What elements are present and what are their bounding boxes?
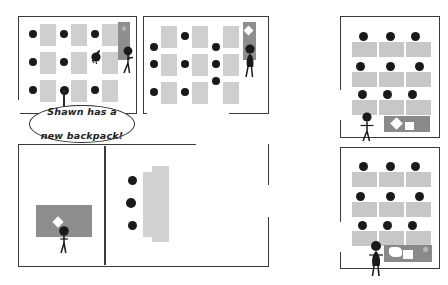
student-dot xyxy=(415,192,424,201)
counter-top xyxy=(152,166,169,242)
desk xyxy=(406,172,431,187)
student-dot xyxy=(359,32,368,41)
student-dot xyxy=(386,162,395,171)
desk xyxy=(406,202,431,217)
comic-stage: Shawn has a new backpack! xyxy=(0,0,448,285)
desk xyxy=(406,100,431,115)
student-dot xyxy=(126,198,136,208)
desk xyxy=(71,24,87,46)
student-dot xyxy=(91,86,99,94)
panel-bottom-left-right-gap xyxy=(267,185,270,217)
desk xyxy=(40,80,56,102)
student-dot xyxy=(128,176,137,185)
student-dot xyxy=(128,221,137,230)
student-dot xyxy=(411,32,420,41)
student-dot xyxy=(212,77,220,85)
person-with-backpack xyxy=(57,226,73,254)
student-dot xyxy=(181,88,189,96)
desk xyxy=(161,54,177,76)
desk xyxy=(161,26,177,48)
speech-bubble: Shawn has a new backpack! xyxy=(29,105,135,143)
student-dot xyxy=(150,88,158,96)
panel-bottom-left-top-gap xyxy=(196,143,268,146)
desk xyxy=(40,24,56,46)
desk xyxy=(161,82,177,104)
student-dot xyxy=(359,162,368,171)
door-knob-icon xyxy=(122,26,126,31)
student-dot xyxy=(91,30,99,38)
desk xyxy=(406,72,431,87)
desk xyxy=(379,72,404,87)
student-dot xyxy=(181,32,189,40)
student-dot xyxy=(60,30,68,38)
desk xyxy=(102,80,118,102)
speech-line-1: Shawn has a xyxy=(41,106,124,118)
desk xyxy=(102,24,118,46)
student-dot xyxy=(383,221,392,230)
student-dot xyxy=(411,162,420,171)
person-at-door xyxy=(243,44,259,78)
desk xyxy=(379,100,404,115)
student-dot xyxy=(386,192,395,201)
desk xyxy=(223,82,239,104)
desk xyxy=(71,52,87,74)
student-dot xyxy=(150,43,158,51)
student-dot xyxy=(386,62,395,71)
desk xyxy=(223,54,239,76)
student-dot xyxy=(383,90,392,99)
desk xyxy=(406,231,431,246)
speech-bubble-text: Shawn has a new backpack! xyxy=(41,106,124,142)
panel-top-right-wall-gap xyxy=(339,90,342,120)
dark-figure-center xyxy=(88,48,106,66)
desk xyxy=(192,82,208,104)
student-dot xyxy=(358,221,367,230)
panel-top-middle-wall-gap xyxy=(147,112,229,116)
desk xyxy=(40,52,56,74)
student-dot xyxy=(150,60,158,68)
desk xyxy=(352,42,377,57)
student-dot xyxy=(181,60,189,68)
desk xyxy=(352,202,377,217)
student-dot xyxy=(408,90,417,99)
student-dot xyxy=(386,32,395,41)
student-dot xyxy=(60,58,68,66)
student-dot xyxy=(356,192,365,201)
teacher-arms-out xyxy=(358,112,378,142)
desk xyxy=(192,54,208,76)
desk xyxy=(379,202,404,217)
desk xyxy=(352,172,377,187)
interior-divider-wall xyxy=(104,146,106,265)
desk xyxy=(379,42,404,57)
student-dot xyxy=(358,90,367,99)
student-dot xyxy=(356,62,365,71)
panel-top-left-wall-gap xyxy=(17,100,20,116)
box-square-icon xyxy=(403,250,413,259)
speech-line-2: new backpack! xyxy=(41,130,124,142)
panel-bottom-right-wall-gap xyxy=(339,222,342,252)
student-dot xyxy=(212,60,220,68)
student-dot xyxy=(415,62,424,71)
desk xyxy=(352,72,377,87)
desk xyxy=(406,42,431,57)
knob-icon xyxy=(423,247,428,252)
desk xyxy=(192,26,208,48)
student-dot xyxy=(29,58,37,66)
student-dot xyxy=(29,86,37,94)
student-dot xyxy=(29,30,37,38)
desk xyxy=(71,80,87,102)
student-dot xyxy=(408,221,417,230)
desk xyxy=(379,172,404,187)
person-at-door xyxy=(121,46,137,74)
desk xyxy=(223,26,239,48)
box-square-icon xyxy=(405,122,414,130)
paper-blob-icon xyxy=(389,247,402,257)
student-dot xyxy=(212,43,220,51)
